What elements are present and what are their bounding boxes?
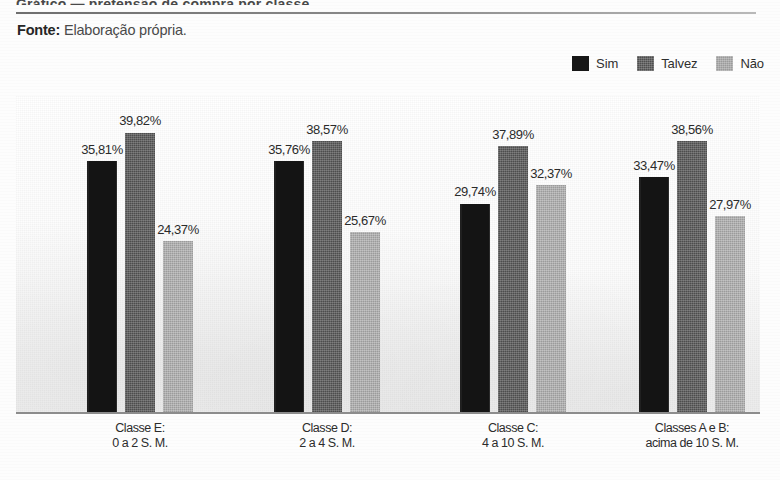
bar-value-label: 37,89% — [492, 127, 534, 142]
bar-sim-group-4[interactable] — [639, 177, 669, 413]
bar-talvez-group-1[interactable] — [125, 133, 155, 414]
bar-value-label: 38,57% — [306, 122, 348, 137]
bar-fill — [536, 185, 566, 413]
bar-fill — [125, 133, 155, 414]
bar-não-group-2[interactable] — [350, 232, 380, 413]
source-value: Elaboração própria. — [64, 22, 187, 38]
bar-value-label: 29,74% — [454, 184, 496, 199]
bar-não-group-3[interactable] — [536, 185, 566, 413]
bar-value-label: 38,56% — [671, 122, 713, 137]
category-label-1: Classe E:0 a 2 S. M. — [112, 421, 168, 451]
legend-item-não[interactable]: Não — [716, 56, 764, 71]
cut-off-title: Gráfico — pretensão de compra por classe — [16, 0, 676, 5]
bar-não-group-4[interactable] — [715, 216, 745, 413]
bar-fill — [274, 161, 304, 413]
bar-fill — [163, 241, 193, 413]
source-label: Fonte: — [17, 22, 60, 38]
bar-value-label: 39,82% — [119, 113, 161, 128]
legend-item-sim[interactable]: Sim — [572, 56, 618, 71]
category-label-line1: Classes A e B: — [655, 421, 729, 435]
bar-talvez-group-3[interactable] — [498, 146, 528, 413]
category-label-4: Classes A e B:acima de 10 S. M. — [645, 421, 738, 451]
bar-fill — [460, 204, 490, 414]
bar-value-label: 27,97% — [709, 197, 751, 212]
bar-value-label: 32,37% — [530, 166, 572, 181]
category-axis: Classe E:0 a 2 S. M.Classe D:2 a 4 S. M.… — [16, 421, 760, 473]
category-label-line1: Classe D: — [302, 421, 352, 435]
bar-value-label: 24,37% — [157, 222, 199, 237]
category-label-line2: 0 a 2 S. M. — [112, 436, 168, 451]
bar-fill — [87, 161, 117, 413]
header-divider — [16, 12, 756, 14]
bar-fill — [350, 232, 380, 413]
axis-baseline — [16, 412, 760, 414]
bar-value-label: 35,76% — [268, 142, 310, 157]
legend-label: Sim — [596, 56, 618, 71]
category-label-line2: 4 a 10 S. M. — [482, 436, 544, 451]
bar-sim-group-3[interactable] — [460, 204, 490, 414]
bar-talvez-group-4[interactable] — [677, 141, 707, 413]
bar-fill — [677, 141, 707, 413]
bar-sim-group-2[interactable] — [274, 161, 304, 413]
legend-label: Talvez — [661, 56, 697, 71]
chart-page: Gráfico — pretensão de compra por classe… — [0, 0, 780, 480]
category-label-line1: Classe E: — [115, 421, 164, 435]
source-line: Fonte: Elaboração própria. — [17, 22, 187, 38]
category-label-line2: 2 a 4 S. M. — [299, 436, 355, 451]
bar-não-group-1[interactable] — [163, 241, 193, 413]
bar-sim-group-1[interactable] — [87, 161, 117, 413]
bar-fill — [715, 216, 745, 413]
chart-legend: SimTalvezNão — [572, 56, 764, 71]
category-label-2: Classe D:2 a 4 S. M. — [299, 421, 355, 451]
legend-item-talvez[interactable]: Talvez — [637, 56, 697, 71]
legend-swatch-icon — [716, 56, 733, 71]
bar-fill — [639, 177, 669, 413]
legend-label: Não — [740, 56, 764, 71]
bar-value-label: 25,67% — [344, 213, 386, 228]
bar-fill — [498, 146, 528, 413]
legend-swatch-icon — [572, 56, 589, 71]
category-label-line1: Classe C: — [488, 421, 538, 435]
legend-swatch-icon — [637, 56, 654, 71]
category-label-line2: acima de 10 S. M. — [645, 436, 738, 451]
category-label-3: Classe C:4 a 10 S. M. — [482, 421, 544, 451]
bar-talvez-group-2[interactable] — [312, 141, 342, 413]
bar-fill — [312, 141, 342, 413]
plot-area: 35,81%39,82%24,37%35,76%38,57%25,67%29,7… — [16, 96, 760, 413]
bar-value-label: 33,47% — [633, 158, 675, 173]
bar-value-label: 35,81% — [81, 142, 123, 157]
